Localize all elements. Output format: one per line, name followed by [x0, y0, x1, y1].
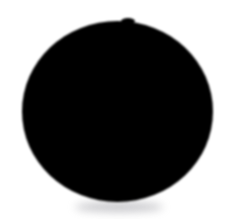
image-canvas: Black circle — [0, 0, 233, 219]
black-circle-artwork — [0, 0, 233, 219]
bottom-shadow-smudge — [75, 202, 163, 212]
top-edge-notch — [121, 18, 135, 24]
black-circle — [22, 21, 213, 202]
